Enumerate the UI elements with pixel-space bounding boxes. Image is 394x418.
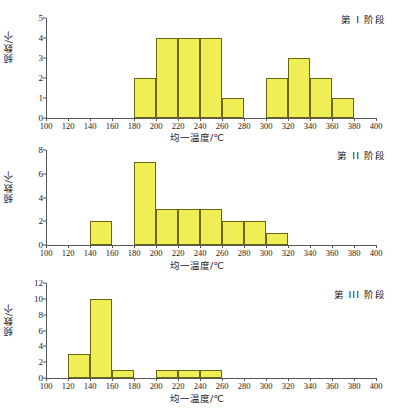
plot-area-stage-2: 0246810012014016018020022024026028030032…: [46, 150, 376, 245]
x-tick-mark: [310, 378, 311, 381]
x-tick-mark: [266, 378, 267, 381]
y-tick-mark: [43, 283, 46, 284]
x-tick-mark: [68, 245, 69, 248]
x-tick-label: 300: [260, 248, 273, 258]
histogram-bar: [200, 38, 222, 118]
x-tick-mark: [266, 245, 267, 248]
y-tick-mark: [43, 362, 46, 363]
y-tick-mark: [43, 197, 46, 198]
x-tick-mark: [134, 245, 135, 248]
x-tick-label: 400: [370, 248, 383, 258]
x-tick-mark: [222, 118, 223, 121]
x-tick-mark: [222, 378, 223, 381]
x-tick-mark: [288, 378, 289, 381]
x-tick-mark: [68, 378, 69, 381]
x-tick-mark: [178, 245, 179, 248]
x-tick-mark: [178, 118, 179, 121]
x-axis-line-1: [46, 118, 376, 119]
x-tick-label: 180: [128, 248, 141, 258]
y-axis-line-1: [46, 18, 47, 118]
x-tick-mark: [178, 378, 179, 381]
x-tick-mark: [90, 378, 91, 381]
histogram-bar: [134, 78, 156, 118]
chart-panel-stage-2: 第 II 阶段 频数/个 024681001201401601802002202…: [0, 140, 394, 275]
x-tick-label: 280: [238, 381, 251, 391]
histogram-bar: [178, 38, 200, 118]
x-tick-label: 160: [106, 381, 119, 391]
x-tick-mark: [222, 245, 223, 248]
histogram-bar: [156, 209, 178, 245]
x-tick-mark: [46, 245, 47, 248]
x-tick-mark: [244, 245, 245, 248]
y-tick-mark: [43, 98, 46, 99]
histogram-bar: [156, 38, 178, 118]
x-tick-label: 260: [216, 248, 229, 258]
histogram-bar: [200, 209, 222, 245]
x-axis-line-2: [46, 245, 376, 246]
x-tick-label: 140: [84, 381, 97, 391]
x-tick-label: 120: [62, 248, 75, 258]
x-tick-mark: [244, 118, 245, 121]
y-tick-mark: [43, 18, 46, 19]
y-tick-mark: [43, 58, 46, 59]
x-tick-mark: [200, 118, 201, 121]
y-tick-mark: [43, 330, 46, 331]
chart-panel-stage-3: 第 III 阶段 频数/个 02468101210012014016018020…: [0, 275, 394, 418]
y-tick-mark: [43, 314, 46, 315]
x-tick-mark: [376, 245, 377, 248]
y-tick-mark: [43, 150, 46, 151]
histogram-bar: [266, 233, 288, 245]
y-tick-mark: [43, 346, 46, 347]
x-tick-mark: [332, 118, 333, 121]
x-axis-label-stage-2: 均一温度/℃: [0, 258, 394, 272]
y-axis-label-stage-1: 频数/个: [2, 30, 16, 63]
x-tick-mark: [112, 118, 113, 121]
x-tick-mark: [288, 245, 289, 248]
x-tick-mark: [90, 245, 91, 248]
histogram-bar: [222, 98, 244, 118]
x-tick-mark: [266, 118, 267, 121]
x-tick-label: 180: [128, 381, 141, 391]
y-tick-label: 12: [34, 278, 43, 288]
x-axis-line-3: [46, 378, 376, 379]
x-tick-mark: [90, 118, 91, 121]
histogram-bar: [244, 221, 266, 245]
x-tick-label: 260: [216, 381, 229, 391]
y-tick-mark: [43, 38, 46, 39]
x-tick-label: 100: [40, 381, 53, 391]
x-tick-label: 200: [150, 248, 163, 258]
x-tick-mark: [46, 118, 47, 121]
y-tick-mark: [43, 78, 46, 79]
x-tick-mark: [376, 118, 377, 121]
x-tick-label: 220: [172, 381, 185, 391]
histogram-bar: [134, 162, 156, 245]
x-tick-label: 320: [282, 248, 295, 258]
y-tick-mark: [43, 221, 46, 222]
x-tick-mark: [112, 245, 113, 248]
histogram-bar: [68, 354, 90, 378]
x-tick-mark: [156, 118, 157, 121]
x-tick-mark: [244, 378, 245, 381]
plot-area-stage-1: 0123451001201401601802002202402602803003…: [46, 18, 376, 118]
y-axis-label-stage-3: 频数/个: [2, 303, 16, 336]
x-tick-mark: [354, 118, 355, 121]
y-axis-label-stage-2: 频数/个: [2, 170, 16, 203]
x-tick-label: 380: [348, 381, 361, 391]
x-tick-label: 220: [172, 248, 185, 258]
x-tick-mark: [354, 378, 355, 381]
histogram-bar: [156, 370, 178, 378]
x-tick-label: 240: [194, 248, 207, 258]
chart-panel-stage-1: 第 I 阶段 频数/个 0123451001201401601802002202…: [0, 0, 394, 140]
y-tick-label: 10: [34, 294, 43, 304]
x-tick-label: 100: [40, 248, 53, 258]
x-tick-mark: [200, 245, 201, 248]
x-tick-mark: [112, 378, 113, 381]
histogram-bar: [178, 209, 200, 245]
histogram-bar: [332, 98, 354, 118]
x-tick-mark: [354, 245, 355, 248]
histogram-bar: [178, 370, 200, 378]
x-tick-label: 380: [348, 248, 361, 258]
x-tick-mark: [68, 118, 69, 121]
histogram-bar: [222, 221, 244, 245]
histogram-bar: [90, 299, 112, 378]
